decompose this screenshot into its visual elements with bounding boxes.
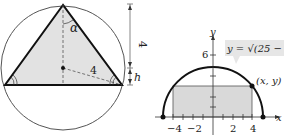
semicircle-graph: −4 −2 2 4 6 x y (x, y) y = √(25 − x²) (155, 26, 284, 135)
x-tick-neg4: −4 (167, 123, 182, 134)
h-label: h (134, 71, 141, 84)
radius-label: 4 (90, 64, 97, 77)
right-endpoint (261, 115, 266, 120)
y-axis-label: y (209, 26, 216, 37)
x-axis-label: x (276, 112, 282, 123)
diagram-canvas: α 4 4 h (0, 0, 284, 138)
triangle (5, 5, 122, 85)
x-tick-neg2: −2 (187, 123, 202, 134)
left-endpoint (161, 115, 166, 120)
center-point (61, 66, 65, 70)
inscribed-rectangle (173, 86, 252, 117)
x-tick-2: 2 (230, 123, 236, 134)
y-tick-6: 6 (202, 49, 208, 60)
height-label: 4 (136, 41, 149, 48)
equation-label: y = √(25 − x²) (226, 43, 284, 54)
corner-point (250, 84, 255, 89)
inscribed-triangle-figure: α 4 4 h (1, 4, 149, 130)
point-label: (x, y) (256, 75, 282, 86)
angle-alpha-label: α (70, 21, 78, 35)
x-tick-4: 4 (250, 123, 256, 134)
